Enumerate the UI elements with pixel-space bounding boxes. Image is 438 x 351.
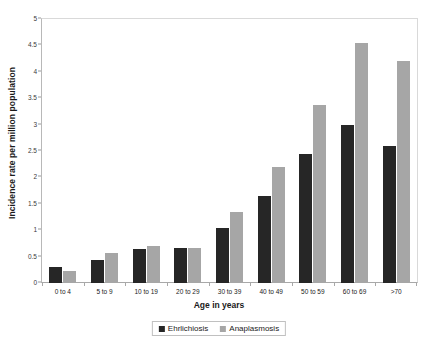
y-axis-tick-label: 0 [33,279,37,286]
y-axis-tick-label: 1 [33,226,37,233]
x-axis-title: Age in years [0,300,438,310]
x-axis-tick-label: 40 to 49 [250,288,292,295]
bar [133,249,146,283]
legend-label: Anaplasmosis [229,324,279,333]
bar-group [209,19,251,283]
x-axis-tick-labels: 0 to 45 to 910 to 1920 to 2930 to 3940 t… [42,288,417,295]
x-axis-tick-label: 30 to 39 [209,288,251,295]
bar [63,271,76,283]
bar [258,196,271,283]
y-axis-tick-label: 3.5 [28,94,37,101]
bar [272,167,285,283]
x-axis-tick-mark [292,283,334,287]
legend-label: Ehrlichiosis [168,324,208,333]
bar [105,253,118,283]
bar [341,125,354,283]
bar [49,267,62,283]
y-axis-tick-label: 3 [33,120,37,127]
bar [397,61,410,283]
bar-group [84,19,126,283]
bar-group [250,19,292,283]
y-axis-tick-label: 5 [33,15,37,22]
bar-group [167,19,209,283]
bar [216,228,229,283]
bar-group [334,19,376,283]
y-axis-tick-label: 2 [33,173,37,180]
y-axis-tick-labels: 00.511.522.533.544.55 [0,18,41,284]
x-axis-tick-mark [334,283,376,287]
x-axis-tick-mark [209,283,251,287]
bar [174,248,187,283]
legend-swatch-icon [159,326,165,332]
x-axis-tick-marks [42,283,417,287]
bar-groups-container [42,19,417,283]
bar-chart: Incidence rate per million population 00… [0,0,438,351]
bar-group [125,19,167,283]
legend-item[interactable]: Ehrlichiosis [159,324,208,333]
bar-group [292,19,334,283]
bar [147,246,160,283]
y-axis-tick-label: 1.5 [28,199,37,206]
x-axis-tick-label: 20 to 29 [167,288,209,295]
x-axis-tick-label: 5 to 9 [84,288,126,295]
x-axis-tick-mark [42,283,84,287]
bar [230,212,243,283]
y-axis-tick-label: 4 [33,67,37,74]
bar [313,105,326,283]
legend-item[interactable]: Anaplasmosis [220,324,279,333]
y-axis-tick-label: 0.5 [28,252,37,259]
bar-group [375,19,417,283]
x-axis-tick-mark [125,283,167,287]
y-axis-tick-label: 2.5 [28,147,37,154]
bar [299,154,312,283]
x-axis-tick-label: 0 to 4 [42,288,84,295]
x-axis-tick-mark [84,283,126,287]
legend-swatch-icon [220,326,226,332]
x-axis-tick-label: 50 to 59 [292,288,334,295]
x-axis-tick-mark [167,283,209,287]
bar [355,43,368,283]
x-axis-tick-label: 60 to 69 [334,288,376,295]
x-axis-tick-label: >70 [375,288,417,295]
bar [383,146,396,283]
y-axis-tick-label: 4.5 [28,41,37,48]
bar [91,260,104,283]
x-axis-tick-mark [250,283,292,287]
chart-legend: EhrlichiosisAnaplasmosis [152,321,286,336]
bar-group [42,19,84,283]
bar [188,248,201,283]
x-axis-tick-label: 10 to 19 [125,288,167,295]
x-axis-tick-mark [375,283,417,287]
